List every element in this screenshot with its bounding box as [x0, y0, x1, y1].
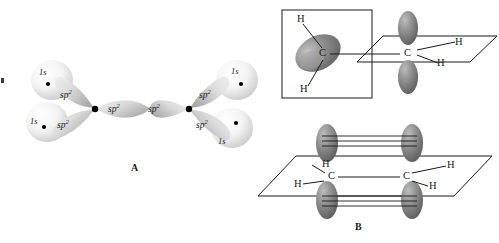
p-orbital-bottom-left-b — [316, 181, 338, 219]
sp2-orbital-sigma-left — [96, 100, 150, 117]
electron-dot-upper-right — [239, 82, 243, 86]
panel-b-h-left-lower: H — [294, 179, 302, 190]
label-sp2-upper-left: sp2 — [60, 89, 72, 101]
label-sp2-lower-left: sp2 — [57, 119, 69, 131]
sp2-exp: 2 — [204, 118, 207, 125]
left-carbon-nucleus — [92, 106, 98, 112]
electron-dot-upper-left — [46, 82, 50, 86]
panel-b-left-carbon: C — [328, 171, 335, 182]
label-sp2-sigma-right: sp2 — [148, 103, 160, 115]
panel-b-right-carbon: C — [403, 171, 410, 182]
top-right-h-right-lower: H — [437, 58, 445, 69]
sp2-exp: 2 — [65, 118, 68, 125]
top-right-right-carbon: C — [404, 48, 411, 59]
top-right-left-carbon: C — [319, 48, 326, 59]
panel-top-right-left-p-orbital — [289, 27, 347, 80]
top-right-h-upper: H — [297, 14, 305, 25]
p-orbital-up-tr — [398, 11, 418, 45]
label-sp2-lower-right: sp2 — [196, 119, 208, 131]
label-1s-upper-left: 1s — [39, 68, 47, 77]
panel-b-h-right-upper: H — [447, 160, 455, 171]
top-right-h-lower: H — [300, 84, 308, 95]
p-orbital-bottom-right-b — [401, 181, 423, 219]
label-sp2-sigma-left: sp2 — [108, 103, 120, 115]
panel-b-h-left-upper: H — [322, 159, 330, 170]
label-sp2-upper-right: sp2 — [199, 89, 211, 101]
panel-top-right-right-bonds — [417, 42, 455, 63]
electron-dot-lower-right — [234, 121, 238, 125]
panel-a-right-carbon-orbitals — [150, 60, 258, 148]
right-carbon-nucleus — [186, 106, 192, 112]
panel-b-h-right-lower: H — [429, 181, 437, 192]
label-1s-lower-right: 1s — [218, 137, 226, 146]
panel-b-label: B — [355, 222, 362, 232]
figure-svg — [0, 0, 499, 243]
sp2-exp: 2 — [156, 102, 159, 109]
p-orbital-top-left-b — [316, 124, 338, 162]
p-orbital-top-right-b — [401, 124, 423, 162]
panel-top-right-right-plane — [357, 36, 497, 62]
p-orbital-down-tr — [398, 60, 418, 94]
label-1s-upper-right: 1s — [231, 67, 239, 76]
electron-dot-lower-left — [42, 125, 46, 129]
top-right-h-right-upper: H — [455, 37, 463, 48]
panel-a-label: A — [131, 163, 138, 173]
figure-canvas: 1s 1s 1s 1s sp2 sp2 sp2 sp2 sp2 sp2 A H … — [0, 0, 499, 243]
sp2-exp: 2 — [207, 88, 210, 95]
sp2-exp: 2 — [116, 102, 119, 109]
label-1s-lower-left: 1s — [30, 117, 38, 126]
panel-b-plane — [258, 156, 492, 196]
sp2-exp: 2 — [68, 88, 71, 95]
